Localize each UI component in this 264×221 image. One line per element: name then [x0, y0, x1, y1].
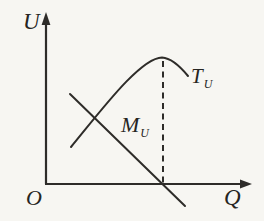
- total-utility-subscript: U: [204, 77, 213, 91]
- q-axis-arrow-icon: [240, 180, 252, 189]
- utility-diagram: U O Q TU MU: [0, 0, 264, 221]
- marginal-utility-letter: M: [121, 112, 139, 137]
- total-utility-letter: T: [191, 64, 203, 88]
- x-axis-label: Q: [224, 186, 241, 209]
- marginal-utility-label: MU: [121, 114, 149, 136]
- u-axis-arrow-icon: [42, 12, 51, 25]
- origin-label: O: [26, 187, 42, 209]
- marginal-utility-curve: [70, 94, 185, 206]
- y-axis-label: U: [23, 10, 40, 33]
- total-utility-label: TU: [191, 66, 212, 87]
- marginal-utility-subscript: U: [140, 126, 149, 140]
